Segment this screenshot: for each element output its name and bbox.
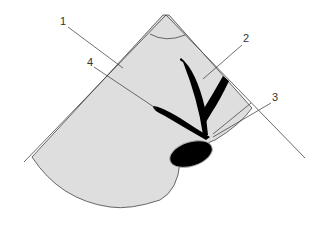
label-1: 1 bbox=[60, 16, 66, 27]
leader-1 bbox=[68, 27, 123, 68]
ultrasound-diagram bbox=[0, 0, 323, 239]
label-2: 2 bbox=[243, 33, 249, 44]
label-4: 4 bbox=[87, 57, 93, 68]
label-3: 3 bbox=[272, 92, 278, 103]
sector-region bbox=[32, 15, 252, 208]
